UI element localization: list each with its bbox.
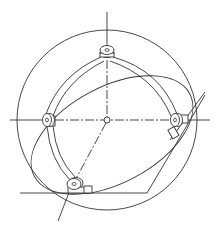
arm-top-left-inner <box>53 61 104 116</box>
frame-arms <box>46 57 177 180</box>
diagram-canvas <box>0 0 216 227</box>
center-node <box>104 117 110 123</box>
diagonal-axis-tail <box>58 190 70 221</box>
arm-left-bottom-inner <box>53 126 75 177</box>
pivot-top <box>100 46 114 58</box>
arm-left-bottom-outer <box>47 126 70 180</box>
inner-ring <box>12 51 212 218</box>
diagonal-axis <box>72 123 106 186</box>
arm-top-right-outer <box>113 57 177 114</box>
arm-top-left-outer <box>46 57 101 114</box>
pivot-bottom <box>67 178 92 194</box>
gimbal-diagram: Gimbal / gyroscope frame line drawing <box>0 0 216 227</box>
pivot-right <box>168 114 188 139</box>
pivot-left <box>43 114 56 127</box>
